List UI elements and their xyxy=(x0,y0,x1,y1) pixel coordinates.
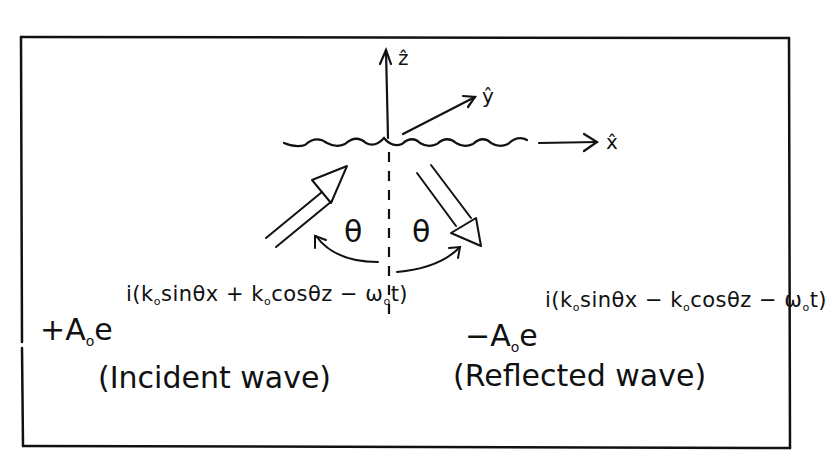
reflected-sign: − xyxy=(465,318,490,353)
incident-angle-label: θ xyxy=(344,214,362,249)
incident-amplitude-sub: o xyxy=(86,333,95,349)
incident-sign: + xyxy=(40,312,65,347)
reflected-base: e xyxy=(519,318,537,353)
incident-wave-caption: (Incident wave) xyxy=(98,360,331,395)
incident-exponent: i(kosinθx + kocosθz − ωot) xyxy=(126,282,408,308)
exp-suffix: t) xyxy=(391,282,408,306)
incident-base: e xyxy=(94,312,112,347)
interface-surface xyxy=(284,138,527,146)
z-axis-label: ẑ xyxy=(398,46,409,70)
exp-suffix: t) xyxy=(810,288,827,312)
exp-part2: cosθz − ω xyxy=(271,282,383,306)
reflected-amplitude: A xyxy=(490,318,511,353)
reflected-angle-label: θ xyxy=(412,214,430,249)
y-axis-arrow xyxy=(403,96,475,134)
reflected-angle-arc xyxy=(397,247,460,272)
exp-k-sub: o xyxy=(573,301,580,314)
y-axis-label: ŷ xyxy=(482,84,494,108)
exp-part1: sinθx − k xyxy=(580,288,683,312)
reflected-wave-formula: −Aoe i(kosinθx − kocosθz − ωot) xyxy=(465,318,538,355)
exp-k-sub: o xyxy=(154,295,161,308)
reflected-amplitude-sub: o xyxy=(511,339,520,355)
exp-prefix: i(k xyxy=(126,282,154,306)
incident-arrow xyxy=(266,166,347,247)
z-axis-arrow xyxy=(380,50,391,138)
x-axis-arrow xyxy=(539,134,597,151)
incident-wave-formula: +Aoe i(kosinθx + kocosθz − ωot) xyxy=(40,312,113,349)
exp-w-sub: o xyxy=(383,295,390,308)
x-axis-label: x̂ xyxy=(606,130,618,154)
reflected-exponent: i(kosinθx − kocosθz − ωot) xyxy=(545,288,827,314)
exp-part1: sinθx + k xyxy=(161,282,264,306)
exp-prefix: i(k xyxy=(545,288,573,312)
reflected-wave-caption: (Reflected wave) xyxy=(453,358,706,393)
exp-part2: cosθz − ω xyxy=(690,288,802,312)
incident-amplitude: A xyxy=(65,312,86,347)
exp-w-sub: o xyxy=(802,301,809,314)
